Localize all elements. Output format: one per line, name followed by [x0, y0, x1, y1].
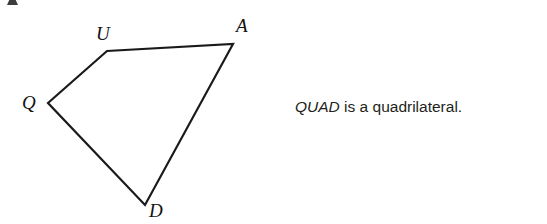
quad-outline-path [48, 44, 233, 205]
caption-predicate: is a quadrilateral. [340, 98, 462, 115]
caption-figure-name: QUAD [295, 98, 340, 115]
vertex-label-a: A [236, 16, 248, 35]
quadrilateral-figure: U A Q D [0, 0, 285, 224]
vertex-label-d: D [149, 201, 163, 220]
caption-text: QUAD is a quadrilateral. [295, 96, 535, 118]
figure-screenshot: U A Q D QUAD is a quadrilateral. [0, 0, 547, 224]
vertex-label-q: Q [22, 93, 36, 112]
caption-panel: QUAD is a quadrilateral. [295, 96, 535, 126]
vertex-label-u: U [96, 24, 110, 43]
